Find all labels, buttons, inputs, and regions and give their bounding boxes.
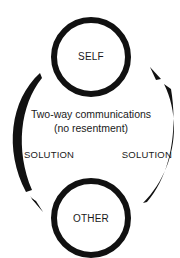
self-node-label: SELF bbox=[61, 51, 121, 62]
right-arrowhead-icon bbox=[150, 67, 161, 80]
center-text-line1: Two-way communications bbox=[20, 107, 162, 121]
left-solution-label: SOLUTION bbox=[24, 149, 84, 160]
right-arc-arrow bbox=[143, 84, 174, 203]
center-text-line2: (no resentment) bbox=[20, 121, 162, 135]
right-solution-label: SOLUTION bbox=[112, 149, 172, 160]
other-node-label: OTHER bbox=[61, 213, 121, 224]
left-arrowhead-icon bbox=[31, 198, 43, 212]
